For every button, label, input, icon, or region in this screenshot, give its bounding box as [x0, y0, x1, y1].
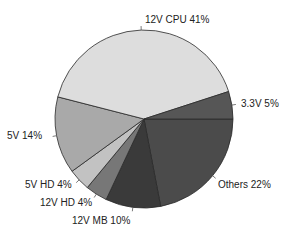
leader-tick	[132, 207, 133, 211]
label-3-3v: 3.3V 5%	[241, 98, 279, 109]
pie-chart: 12V CPU 41% 3.3V 5% 5V 14% Others 22% 5V…	[0, 0, 287, 233]
label-5v: 5V 14%	[7, 130, 42, 141]
leader-tick	[94, 194, 96, 197]
leader-tick	[53, 136, 57, 137]
label-12v-mb: 12V MB 10%	[72, 215, 130, 226]
label-12v-hd: 12V HD 4%	[40, 197, 92, 208]
label-5v-hd: 5V HD 4%	[25, 179, 72, 190]
label-12v-cpu: 12V CPU 41%	[145, 14, 210, 25]
leader-tick	[232, 104, 236, 105]
label-others: Others 22%	[218, 179, 271, 190]
leader-tick	[76, 180, 79, 183]
leader-tick	[213, 176, 216, 179]
pie-slices	[55, 30, 233, 208]
